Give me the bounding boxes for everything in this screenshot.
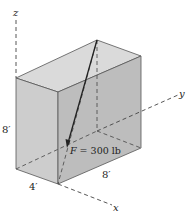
height-dimension: 8′	[2, 124, 11, 135]
force-label: F = 300 lb	[69, 145, 121, 156]
z-axis-label: z	[12, 7, 19, 18]
box-force-diagram: z y x 8′ 8′ 4′ F = 300 lb	[0, 0, 191, 216]
depth-dimension: 4′	[29, 181, 38, 192]
y-axis-label: y	[178, 88, 185, 99]
x-axis-label: x	[113, 202, 119, 213]
front-face	[16, 78, 58, 184]
x-axis	[58, 184, 112, 205]
width-dimension: 8′	[102, 169, 111, 180]
